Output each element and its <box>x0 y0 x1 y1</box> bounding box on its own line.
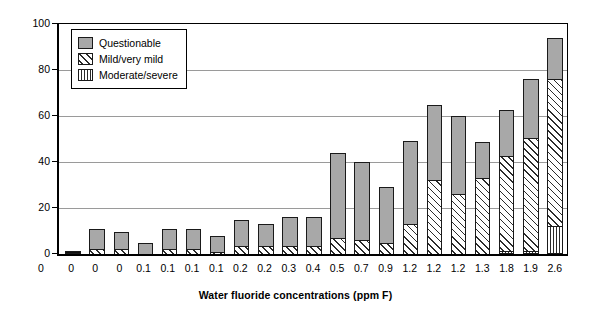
bar-segment-moderate <box>499 251 514 254</box>
bar-segment-mild <box>234 246 249 254</box>
bar-segment-mild <box>379 243 394 255</box>
bar-segment-moderate <box>523 251 538 254</box>
stacked-bar[interactable] <box>210 236 225 254</box>
stacked-bar[interactable] <box>306 217 321 254</box>
bar-segment-mild <box>186 249 201 254</box>
stacked-bar[interactable] <box>162 229 177 254</box>
stacked-bar[interactable] <box>258 224 273 254</box>
stacked-bar[interactable] <box>547 38 562 254</box>
stacked-bar[interactable] <box>234 220 249 254</box>
x-axis-tick-label: 0.1 <box>156 262 180 274</box>
stacked-bar[interactable] <box>403 141 418 254</box>
stacked-bar[interactable] <box>499 110 514 254</box>
stacked-bar[interactable] <box>475 142 490 254</box>
legend-label: Moderate/severe <box>99 69 178 81</box>
bar-segment-mild <box>282 246 297 254</box>
bar-slot <box>495 24 519 254</box>
bar-segment-questionable <box>162 229 177 250</box>
x-axis-tick-label: 1.2 <box>398 262 422 274</box>
stacked-bar[interactable] <box>379 187 394 254</box>
bar-segment-mild <box>499 156 514 250</box>
bar-segment-mild <box>475 178 490 254</box>
bar-segment-mild <box>523 138 538 251</box>
stacked-bar[interactable] <box>89 229 104 254</box>
bar-segment-moderate <box>547 226 562 254</box>
bar-segment-questionable <box>427 105 442 181</box>
bar-segment-mild <box>427 180 442 254</box>
bar-segment-questionable <box>523 79 538 138</box>
x-axis-tick-label: 2.6 <box>543 262 567 274</box>
y-axis-tick-label: 80 <box>16 64 50 75</box>
x-axis-tick-label: 1.8 <box>494 262 518 274</box>
legend-item: Moderate/severe <box>78 67 178 83</box>
x-axis-tick-label: 0.9 <box>373 262 397 274</box>
x-axis-title: Water fluoride concentrations (ppm F) <box>0 289 591 301</box>
stacked-bar[interactable] <box>186 229 201 254</box>
stacked-bar[interactable] <box>114 232 129 254</box>
bar-slot <box>422 24 446 254</box>
legend-swatch-solid-gray <box>78 37 93 49</box>
bar-slot <box>519 24 543 254</box>
bar-segment-questionable <box>186 229 201 250</box>
bar-segment-mild <box>210 252 225 254</box>
x-axis-tick-label: 0.1 <box>132 262 156 274</box>
bar-slot <box>471 24 495 254</box>
bar-segment-questionable <box>138 243 153 255</box>
legend-swatch-diagonal-hatch <box>78 53 93 65</box>
bar-slot <box>543 24 567 254</box>
bar-segment-questionable <box>210 236 225 252</box>
bar-segment-questionable <box>114 232 129 249</box>
y-axis-tick-label: 100 <box>16 18 50 29</box>
y-axis-tick-label: 20 <box>16 202 50 213</box>
bar-slot <box>278 24 302 254</box>
bar-segment-questionable <box>306 217 321 246</box>
bar-slot <box>447 24 471 254</box>
x-axis-tick-label: 0 <box>83 262 107 274</box>
bar-slot <box>302 24 326 254</box>
bar-slot <box>230 24 254 254</box>
stacked-bar[interactable] <box>354 162 369 254</box>
chart-figure: Percent 020406080100 QuestionableMild/ve… <box>0 0 591 313</box>
bar-slot <box>326 24 350 254</box>
bar-segment-questionable <box>89 229 104 250</box>
bar-slot <box>206 24 230 254</box>
bar-segment-questionable <box>234 220 249 246</box>
x-axis-tick-label: 0 <box>107 262 131 274</box>
x-axis-tick-label: 0.2 <box>228 262 252 274</box>
bar-segment-questionable <box>547 38 562 79</box>
stacked-bar[interactable] <box>138 243 153 255</box>
stacked-bar[interactable] <box>427 105 442 254</box>
bar-segment-mild <box>403 224 418 254</box>
bar-segment-questionable <box>258 224 273 246</box>
bar-segment-mild <box>354 240 369 254</box>
y-axis-tick-label: 60 <box>16 110 50 121</box>
stacked-bar[interactable] <box>451 116 466 254</box>
x-axis-tick-label: 1.2 <box>422 262 446 274</box>
bar-segment-questionable <box>475 142 490 178</box>
bar-segment-questionable <box>379 187 394 242</box>
x-axis-tick-label: 0.7 <box>349 262 373 274</box>
legend-item: Mild/very mild <box>78 51 178 67</box>
bar-segment-mild <box>89 249 104 254</box>
x-axis-tick-label: 0.2 <box>253 262 277 274</box>
x-axis-tick-label: 0.5 <box>325 262 349 274</box>
legend-label: Mild/very mild <box>99 53 163 65</box>
legend: QuestionableMild/very mildModerate/sever… <box>71 29 187 89</box>
bar-segment-mild <box>451 194 466 254</box>
stacked-bar[interactable] <box>282 217 297 254</box>
legend-swatch-vertical-hatch <box>78 69 93 81</box>
bar-segment-questionable <box>330 153 345 238</box>
stacked-bar[interactable] <box>65 251 80 254</box>
bar-segment-mild <box>162 249 177 254</box>
x-axis-tick-labels: 0000.10.10.10.10.20.20.30.40.50.70.91.21… <box>59 262 567 274</box>
bar-segment-mild <box>330 238 345 254</box>
bar-slot <box>398 24 422 254</box>
bar-segment-mild <box>547 79 562 226</box>
x-axis-tick-label: 0.4 <box>301 262 325 274</box>
y-axis-tick-label: 0 <box>16 248 50 259</box>
stacked-bar[interactable] <box>330 153 345 254</box>
bar-segment-baseline <box>65 251 80 254</box>
x-axis-tick-label: 1.9 <box>519 262 543 274</box>
stacked-bar[interactable] <box>523 79 538 254</box>
bar-segment-questionable <box>499 110 514 156</box>
